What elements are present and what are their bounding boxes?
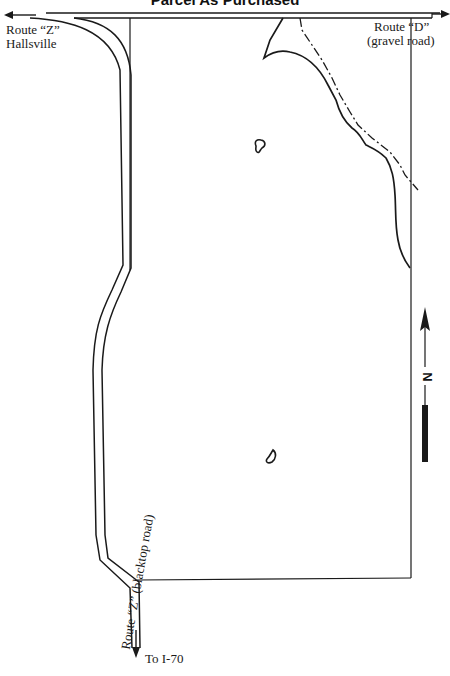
route-z-road <box>30 18 140 648</box>
north-arrow-icon <box>420 307 430 462</box>
arrow-east-icon <box>432 10 450 18</box>
parcel-boundary <box>130 18 411 580</box>
pond-south <box>266 450 275 463</box>
route-d-label: Route “D” <box>374 20 429 34</box>
map-title: Parcel As Purchased <box>0 0 450 8</box>
hallsville-label: Hallsville <box>6 37 57 51</box>
north-label: N <box>417 371 435 383</box>
pond-north <box>255 140 265 153</box>
route-z-label: Route “Z” <box>6 23 60 37</box>
route-d-road <box>46 13 440 18</box>
parcel-map <box>0 0 450 676</box>
gravel-road-label: (gravel road) <box>367 34 435 48</box>
to-i70-label: To I-70 <box>145 652 183 666</box>
creek <box>264 18 410 268</box>
